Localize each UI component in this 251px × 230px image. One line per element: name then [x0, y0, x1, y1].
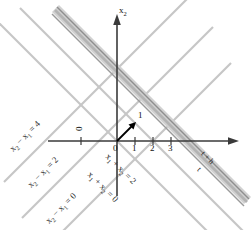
band-edge-upper — [57, 7, 249, 199]
band-edge-lower — [52, 14, 244, 206]
vector-label: 1 — [138, 111, 143, 120]
gradient-vector — [117, 122, 136, 141]
x-tick-label-3: 3 — [168, 144, 173, 153]
level-line-sum-2 — [20, 8, 249, 230]
y-axis-label: x2 — [119, 6, 127, 17]
x-tick-label-0: 0 — [113, 144, 118, 153]
x-axis-arrowhead — [228, 137, 239, 144]
x-tick-label-2: 2 — [150, 144, 155, 153]
level-set-diagram: x2 0 1 2 3 0 1 x2 − x1 = 4 x2 − x1 = 2 x… — [0, 0, 251, 230]
x-tick-label-1: 1 — [132, 144, 137, 153]
x-axis-zero-marker: 0 — [75, 127, 84, 132]
diagram-canvas — [0, 0, 251, 230]
